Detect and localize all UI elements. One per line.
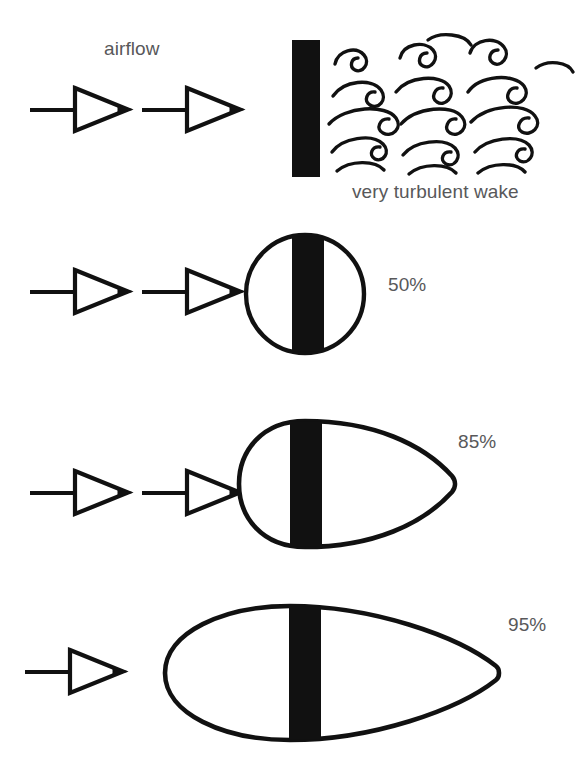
frontal-area-bar [290,422,322,547]
airflow-arrow [142,88,244,131]
airflow-arrow [142,471,244,514]
frontal-area-bar [289,607,321,740]
airflow-arrow [25,650,127,693]
diagram-artwork [0,0,580,775]
airflow-arrow [30,88,132,131]
body-flat-plate [292,40,320,177]
airflow-arrow [30,471,132,514]
airflow-arrow [142,270,244,313]
frontal-area-bar [292,237,324,352]
body-teardrop [239,421,455,547]
label-airflow: airflow [104,38,160,60]
label-drag-reduction-teardrop: 85% [458,431,496,453]
airflow-arrow [30,270,132,313]
row-airfoil [25,606,499,740]
label-very-turbulent-wake: very turbulent wake [352,181,519,203]
row-circle [30,235,364,353]
aerodynamics-diagram: airflow very turbulent wake 50% 85% 95% [0,0,580,775]
label-drag-reduction-circle: 50% [388,274,426,296]
row-teardrop [30,421,455,547]
label-drag-reduction-airfoil: 95% [508,614,546,636]
turbulent-wake-swirls [329,35,573,174]
body-airfoil [165,606,499,740]
